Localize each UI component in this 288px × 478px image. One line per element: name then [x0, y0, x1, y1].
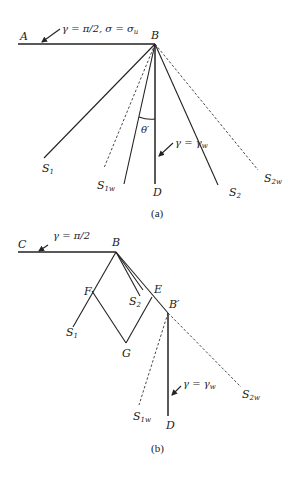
characteristic-f-g: [92, 291, 126, 343]
characteristic-b-s2-fan: [116, 252, 143, 290]
point-g-label: G: [122, 347, 131, 360]
point-d-label: D: [165, 419, 175, 432]
label-s1: S1: [66, 326, 78, 340]
label-s2w: S2w: [264, 172, 282, 186]
label-s2: S2: [129, 295, 142, 309]
characteristic-s1w: [104, 44, 155, 168]
characteristic-s2w: [168, 313, 241, 387]
characteristic-s1: [44, 44, 155, 158]
label-s1w: S1w: [97, 179, 115, 193]
wall-arrow-icon: [159, 143, 173, 156]
boundary-condition-label: γ = π/2, σ = σu: [62, 23, 139, 36]
label-s1: S1: [42, 162, 54, 176]
label-s2w: S2w: [242, 388, 260, 402]
label-s2: S2: [229, 186, 242, 200]
characteristic-s1w: [139, 313, 168, 405]
point-b-label: B: [111, 236, 120, 249]
wall-condition-label: γ = γw: [175, 137, 208, 150]
label-s1w: S1w: [133, 410, 151, 424]
characteristic-s2: [155, 44, 218, 185]
characteristic-theta: [124, 44, 155, 184]
wall-arrow-icon: [172, 386, 181, 395]
point-f-label: F: [83, 285, 92, 298]
characteristic-b-s1: [73, 252, 116, 327]
boundary-condition-label: γ = π/2: [53, 230, 90, 241]
characteristic-b-s2: [116, 252, 140, 296]
boundary-arrow-icon: [42, 29, 60, 42]
characteristic-s2w: [155, 44, 258, 170]
point-b-label: B: [150, 29, 159, 42]
boundary-arrow-icon: [39, 245, 48, 251]
angle-arc: [139, 117, 155, 119]
figure-a: A B γ = π/2, σ = σu θ′ γ = γw S1 S1w D S…: [18, 23, 282, 220]
wall-condition-label: γ = γw: [183, 378, 216, 391]
caption-b: (b): [151, 442, 164, 455]
stress-characteristics-diagram: A B γ = π/2, σ = σu θ′ γ = γw S1 S1w D S…: [0, 0, 288, 478]
point-a-label: A: [19, 30, 28, 43]
figure-b: C B γ = π/2 F E G B′ S1 S2 S1w S2w D γ =…: [18, 230, 260, 455]
caption-a: (a): [151, 207, 164, 220]
point-bprime-label: B′: [168, 298, 180, 311]
point-c-label: C: [18, 238, 27, 251]
point-e-label: E: [153, 283, 162, 296]
point-d-label: D: [152, 186, 162, 199]
angle-theta-label: θ′: [141, 124, 150, 135]
